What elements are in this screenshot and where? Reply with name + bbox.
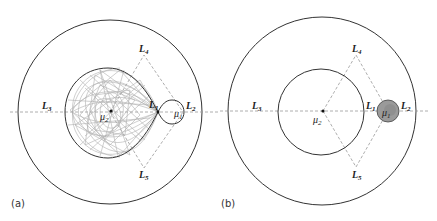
panel-tag-b: (b) bbox=[221, 198, 235, 209]
panel-a: L3 L4 L5 L1 L2 μ1 μ2 (a) bbox=[10, 20, 218, 209]
label-l2-a: L2 bbox=[185, 100, 196, 113]
label-l4-b: L4 bbox=[351, 43, 362, 56]
label-l3-a: L3 bbox=[41, 100, 52, 113]
panel-b: L3 L4 L5 L1 L2 μ1 μ2 (b) bbox=[220, 17, 430, 209]
label-l5-a: L5 bbox=[138, 169, 149, 182]
label-l5-b: L5 bbox=[351, 169, 362, 182]
mu2-point-a bbox=[109, 109, 112, 112]
mu2-point-b bbox=[321, 109, 324, 112]
inner-circle-b bbox=[278, 69, 364, 155]
label-mu2-b: μ2 bbox=[312, 114, 322, 127]
panel-tag-a: (a) bbox=[11, 198, 25, 209]
chaotic-trajectories bbox=[68, 68, 158, 157]
figure: L3 L4 L5 L1 L2 μ1 μ2 (a) L3 L4 L5 L1 L2 … bbox=[0, 0, 437, 221]
l5-triangle-b bbox=[323, 111, 388, 167]
label-l4-a: L4 bbox=[138, 43, 149, 56]
label-mu1-a: μ1 bbox=[173, 108, 183, 121]
l4-triangle-b bbox=[323, 55, 388, 111]
